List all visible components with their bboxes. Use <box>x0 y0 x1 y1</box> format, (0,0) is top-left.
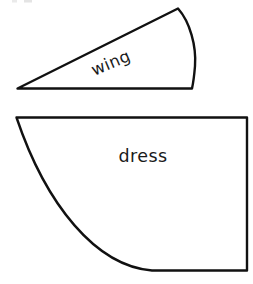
dress-label: dress <box>119 146 168 166</box>
pattern-sheet: wing dress <box>0 0 253 284</box>
pattern-drawing-canvas: wing dress <box>0 0 253 284</box>
